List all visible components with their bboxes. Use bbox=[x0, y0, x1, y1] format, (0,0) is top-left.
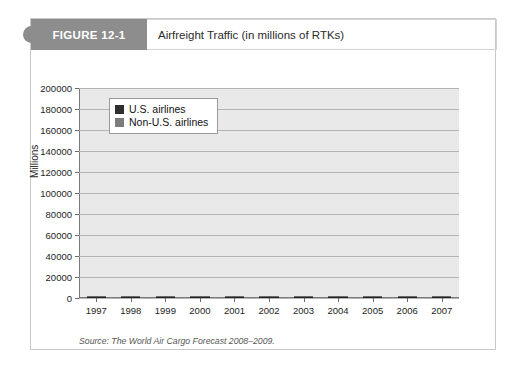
x-axis-tick-label: 2004 bbox=[328, 305, 349, 316]
x-axis-tick-mark bbox=[442, 298, 443, 302]
legend-swatch-icon bbox=[115, 105, 124, 114]
x-axis-tick-mark bbox=[407, 298, 408, 302]
figure-number-tab: FIGURE 12-1 bbox=[31, 19, 147, 50]
y-axis-tick-label: 0 bbox=[67, 293, 72, 304]
x-axis-tick-mark bbox=[304, 298, 305, 302]
figure-caption-text: Airfreight Traffic (in millions of RTKs) bbox=[158, 29, 344, 41]
x-axis-tick-mark bbox=[200, 298, 201, 302]
tab-knob-icon bbox=[23, 26, 40, 43]
bar-slot: 2002 bbox=[252, 88, 287, 298]
y-axis-tick-label: 200000 bbox=[40, 83, 72, 94]
plot-region: 0200004000060000800001000001200001400001… bbox=[79, 88, 459, 298]
chart-area: Millions 0200004000060000800001000001200… bbox=[31, 50, 497, 350]
legend-label: U.S. airlines bbox=[129, 103, 186, 115]
y-axis-tick-label: 180000 bbox=[40, 104, 72, 115]
chart-legend: U.S. airlinesNon-U.S. airlines bbox=[109, 98, 218, 134]
figure-number-label: FIGURE 12-1 bbox=[53, 29, 126, 41]
bar-slot: 2006 bbox=[390, 88, 425, 298]
source-note: Source: The World Air Cargo Forecast 200… bbox=[79, 336, 275, 346]
bar-slot: 2007 bbox=[424, 88, 459, 298]
x-axis-tick-label: 2003 bbox=[293, 305, 314, 316]
legend-swatch-icon bbox=[115, 118, 124, 127]
x-axis-tick-mark bbox=[234, 298, 235, 302]
bar-slot: 2001 bbox=[217, 88, 252, 298]
x-axis-tick-label: 1999 bbox=[155, 305, 176, 316]
legend-label: Non-U.S. airlines bbox=[129, 116, 208, 128]
bar-slot: 2003 bbox=[286, 88, 321, 298]
y-axis-tick-label: 100000 bbox=[40, 188, 72, 199]
bar-slot: 2005 bbox=[355, 88, 390, 298]
y-axis-tick-label: 80000 bbox=[46, 209, 72, 220]
x-axis-tick-mark bbox=[131, 298, 132, 302]
y-axis-tick-label: 40000 bbox=[46, 251, 72, 262]
bar-slot: 2004 bbox=[321, 88, 356, 298]
x-axis-tick-label: 1998 bbox=[120, 305, 141, 316]
x-axis-tick-label: 2005 bbox=[362, 305, 383, 316]
y-axis-tick-label: 120000 bbox=[40, 167, 72, 178]
x-axis-tick-mark bbox=[96, 298, 97, 302]
figure-frame: FIGURE 12-1 Airfreight Traffic (in milli… bbox=[30, 18, 496, 350]
x-axis-tick-mark bbox=[373, 298, 374, 302]
x-axis-tick-label: 2000 bbox=[189, 305, 210, 316]
y-axis-title: Millions bbox=[29, 145, 40, 178]
x-axis-tick-mark bbox=[269, 298, 270, 302]
y-axis-tick-label: 140000 bbox=[40, 146, 72, 157]
x-axis-tick-label: 2007 bbox=[431, 305, 452, 316]
x-axis-tick-label: 2002 bbox=[258, 305, 279, 316]
y-axis-tick-mark bbox=[75, 298, 79, 299]
figure-caption-cell: Airfreight Traffic (in millions of RTKs) bbox=[147, 19, 497, 50]
x-axis-tick-mark bbox=[338, 298, 339, 302]
figure-header: FIGURE 12-1 Airfreight Traffic (in milli… bbox=[31, 19, 497, 50]
x-axis-tick-label: 2001 bbox=[224, 305, 245, 316]
x-axis-tick-label: 1997 bbox=[86, 305, 107, 316]
y-axis-tick-label: 20000 bbox=[46, 272, 72, 283]
x-axis-tick-mark bbox=[165, 298, 166, 302]
y-axis-tick-label: 60000 bbox=[46, 230, 72, 241]
legend-item[interactable]: U.S. airlines bbox=[115, 103, 208, 115]
y-axis-tick-label: 160000 bbox=[40, 125, 72, 136]
x-axis-tick-label: 2006 bbox=[397, 305, 418, 316]
legend-item[interactable]: Non-U.S. airlines bbox=[115, 116, 208, 128]
